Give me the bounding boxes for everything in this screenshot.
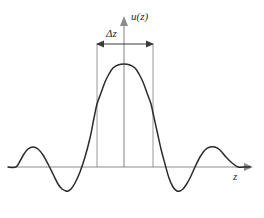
y-axis-label: u(z) [131,11,148,22]
x-axis-label: z [233,171,237,182]
sinc-plot [0,0,264,218]
y-axis-arrowhead [120,16,128,26]
sinc-curve [8,64,250,191]
figure-container: u(z) z Δz [0,0,264,218]
delta-z-label: Δz [106,28,117,39]
